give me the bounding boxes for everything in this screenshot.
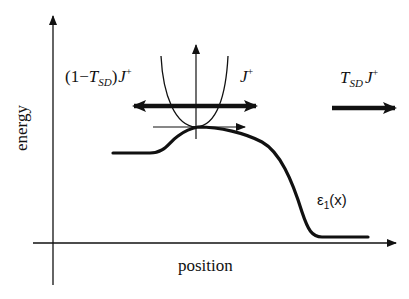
reflected-flux-label: (1−TSD)J+ xyxy=(65,66,132,88)
position-axis-label: position xyxy=(178,256,233,275)
band-profile-curve xyxy=(113,127,368,237)
main-axes xyxy=(33,16,396,285)
transmitted-flux-label: TSDJ+ xyxy=(340,67,378,89)
energy-axis-label: energy xyxy=(12,105,31,151)
incident-flux-label: J+ xyxy=(240,66,254,86)
band-curve-label: ε1(x) xyxy=(317,191,347,211)
dispersion-parabola xyxy=(161,56,228,127)
energy-band-diagram: energy position (1−TSD)J+ J+ TSDJ+ ε1(x) xyxy=(0,0,409,299)
